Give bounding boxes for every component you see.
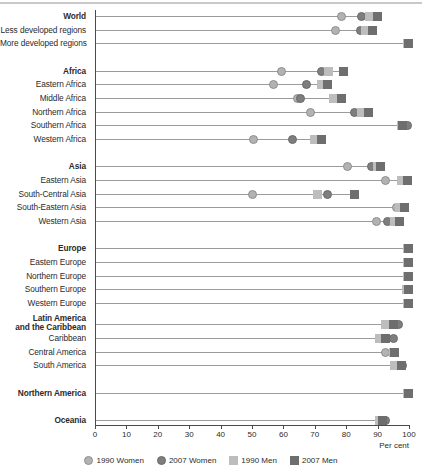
data-point-men-1990	[313, 190, 322, 199]
row-label: Northern Africa	[0, 106, 86, 119]
row-label: Southern Africa	[0, 119, 86, 132]
x-tick-label: 60	[271, 430, 295, 439]
row-label: Oceania	[0, 414, 86, 427]
data-point-women-2007	[288, 135, 297, 144]
chart-row: Middle Africa	[0, 92, 422, 105]
row-connector-line	[95, 125, 407, 126]
row-label: Africa	[0, 65, 86, 78]
data-point-women-1990	[331, 26, 340, 35]
chart-row: Northern Africa	[0, 106, 422, 119]
row-connector-line	[95, 365, 403, 366]
x-tick-mark	[189, 425, 190, 429]
x-tick-mark	[158, 425, 159, 429]
legend-label: 2007 Men	[302, 456, 338, 465]
row-connector-line	[95, 420, 385, 421]
row-label: Southern Europe	[0, 283, 86, 296]
row-label: Less developed regions	[0, 24, 86, 37]
row-label: South America	[0, 359, 86, 372]
data-point-men-2007	[317, 135, 326, 144]
x-axis-title: Per cent	[379, 441, 409, 450]
chart-row: More developed regions	[0, 37, 422, 50]
data-point-men-2007	[397, 361, 406, 370]
row-connector-line	[95, 393, 408, 394]
row-connector-line	[95, 180, 407, 181]
legend-label: 2007 Women	[169, 456, 216, 465]
row-label: Eastern Africa	[0, 78, 86, 91]
data-point-men-2007	[381, 334, 390, 343]
data-point-men-2007	[390, 348, 399, 357]
data-point-women-2007	[323, 190, 332, 199]
data-point-women-2007	[302, 80, 311, 89]
x-tick-mark	[95, 425, 96, 429]
row-connector-line	[95, 262, 408, 263]
data-point-women-1990	[248, 190, 257, 199]
data-point-men-2007	[403, 176, 412, 185]
data-point-women-1990	[306, 108, 315, 117]
row-label: Eastern Asia	[0, 174, 86, 187]
chart-row: Eastern Europe	[0, 256, 422, 269]
row-label: South-Central Asia	[0, 188, 86, 201]
x-tick-label: 100	[397, 430, 421, 439]
row-connector-line	[95, 303, 408, 304]
legend-item: 2007 Women	[157, 456, 216, 465]
chart-container: WorldLess developed regionsMore develope…	[0, 0, 422, 475]
chart-row: Southern Europe	[0, 283, 422, 296]
chart-row: Caribbean	[0, 332, 422, 345]
row-label: Eastern Europe	[0, 256, 86, 269]
row-connector-line	[95, 338, 393, 339]
data-point-men-2007	[389, 320, 398, 329]
legend-label: 1990 Women	[96, 456, 143, 465]
data-point-men-2007	[404, 39, 413, 48]
data-point-women-1990	[343, 162, 352, 171]
data-point-men-2007	[376, 162, 385, 171]
row-connector-line	[95, 221, 400, 222]
chart-row: South America	[0, 359, 422, 372]
data-point-men-2007	[368, 26, 377, 35]
data-point-men-1990	[324, 67, 333, 76]
x-tick-mark	[221, 425, 222, 429]
x-tick-label: 90	[366, 430, 390, 439]
row-label: Western Asia	[0, 215, 86, 228]
x-tick-mark	[126, 425, 127, 429]
row-label: Asia	[0, 160, 86, 173]
row-connector-line	[95, 324, 398, 325]
chart-legend: 1990 Women2007 Women1990 Men2007 Men	[0, 452, 422, 468]
data-point-men-2007	[404, 258, 413, 267]
x-tick-label: 80	[334, 430, 358, 439]
data-point-women-1990	[372, 217, 381, 226]
x-tick-label: 0	[83, 430, 107, 439]
chart-row: Europe	[0, 242, 422, 255]
row-connector-line	[95, 166, 381, 167]
row-label: Western Europe	[0, 297, 86, 310]
x-tick-label: 30	[177, 430, 201, 439]
chart-row: South-Eastern Asia	[0, 201, 422, 214]
row-connector-line	[95, 289, 408, 290]
chart-row: Northern America	[0, 387, 422, 400]
row-connector-line	[95, 248, 408, 249]
data-point-women-2007	[389, 334, 398, 343]
legend-item: 1990 Men	[229, 456, 277, 465]
data-point-men-2007	[395, 217, 404, 226]
data-point-men-2007	[373, 12, 382, 21]
x-tick-mark	[315, 425, 316, 429]
legend-swatch-circle-icon	[157, 456, 166, 465]
y-axis-line	[95, 10, 96, 425]
row-connector-line	[95, 16, 378, 17]
data-point-women-2007	[296, 94, 305, 103]
row-label: Western Africa	[0, 133, 86, 146]
row-label: Caribbean	[0, 332, 86, 345]
row-label: World	[0, 10, 86, 23]
row-label: Europe	[0, 242, 86, 255]
x-tick-mark	[346, 425, 347, 429]
legend-swatch-square-icon	[229, 456, 238, 465]
chart-row: Southern Africa	[0, 119, 422, 132]
chart-row: Central America	[0, 346, 422, 359]
top-divider	[0, 2, 422, 4]
data-point-men-2007	[404, 272, 413, 281]
chart-row: Western Africa	[0, 133, 422, 146]
data-point-women-1990	[337, 12, 346, 21]
row-connector-line	[95, 352, 395, 353]
chart-row: Latin Americaand the Caribbean	[0, 318, 422, 331]
x-tick-label: 10	[114, 430, 138, 439]
row-connector-line	[95, 71, 343, 72]
